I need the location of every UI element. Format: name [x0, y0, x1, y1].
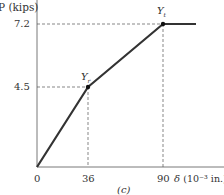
x-tick-label-36: 36	[82, 174, 95, 184]
y-tick-label-4.5: 4.5	[14, 82, 30, 92]
y-axis-label: P (kips)	[0, 2, 38, 13]
point-label-yt: Yt	[157, 6, 166, 18]
point-label-yr-main: Y	[81, 71, 88, 82]
point-yt	[161, 22, 165, 26]
point-label-yr-sub: r	[88, 77, 91, 84]
figure-caption: (c)	[117, 185, 130, 195]
x-axis-label: δ (10⁻³ in.)	[174, 174, 224, 184]
x-tick-label-0: 0	[34, 174, 40, 184]
y-tick-label-7.2: 7.2	[14, 19, 30, 29]
chart-canvas	[0, 0, 224, 195]
point-label-yt-sub: t	[164, 11, 166, 18]
point-label-yr: Yr	[81, 72, 90, 84]
x-axis-symbol: δ	[174, 173, 180, 184]
p-delta-curve	[37, 24, 196, 167]
x-tick-label-90: 90	[157, 174, 170, 184]
point-yr	[86, 85, 90, 89]
point-label-yt-main: Y	[157, 5, 164, 16]
x-axis-units: (10⁻³ in.)	[183, 173, 224, 184]
